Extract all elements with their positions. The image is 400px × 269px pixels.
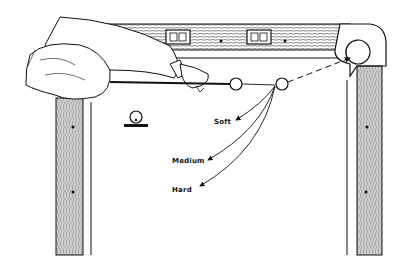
label-soft: Soft	[214, 118, 231, 126]
object-ball	[276, 78, 288, 90]
label-hard: Hard	[172, 186, 192, 194]
object-ball-path	[288, 58, 350, 82]
billiards-illustration: Soft Medium Hard	[0, 0, 400, 269]
label-medium: Medium	[172, 157, 205, 165]
draw-paths	[200, 86, 275, 186]
cue-ball-path	[242, 84, 275, 85]
cue-stick	[110, 82, 230, 84]
left-rail	[56, 98, 91, 255]
cue-ball	[230, 78, 242, 90]
right-rail	[347, 66, 382, 255]
cue-ball-side-view-icon	[124, 111, 148, 127]
